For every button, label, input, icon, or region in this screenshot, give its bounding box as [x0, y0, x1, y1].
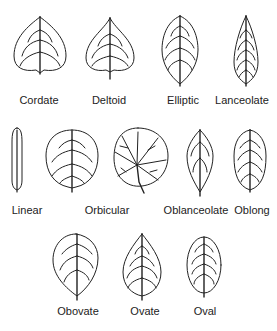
elliptic-leaf-icon	[162, 16, 198, 86]
orbicular-palmate-leaf-icon	[114, 128, 168, 193]
leaf-shapes-diagram: Cordate Deltoid Elliptic Lanceolate Line…	[0, 0, 277, 331]
oblanceolate-leaf-icon	[187, 130, 213, 196]
label-orbicular: Orbicular	[85, 204, 130, 216]
deltoid-leaf-icon	[86, 18, 134, 79]
label-ovate: Ovate	[130, 305, 159, 317]
lanceolate-leaf-icon	[234, 16, 258, 86]
linear-leaf-icon	[12, 128, 22, 192]
label-oval: Oval	[194, 305, 217, 317]
label-linear: Linear	[12, 204, 43, 216]
obovate-leaf-icon	[53, 234, 98, 300]
label-oblanceolate: Oblanceolate	[164, 204, 229, 216]
oval-leaf-icon	[187, 237, 221, 297]
label-obovate: Obovate	[57, 305, 99, 317]
cordate-leaf-icon	[14, 17, 66, 74]
orbicular-leaf-icon	[46, 130, 98, 192]
label-deltoid: Deltoid	[92, 94, 126, 106]
label-cordate: Cordate	[19, 94, 58, 106]
ovate-leaf-icon	[123, 234, 161, 300]
label-oblong: Oblong	[234, 204, 269, 216]
oblong-leaf-icon	[234, 130, 266, 192]
label-elliptic: Elliptic	[167, 94, 199, 106]
label-lanceolate: Lanceolate	[215, 94, 269, 106]
